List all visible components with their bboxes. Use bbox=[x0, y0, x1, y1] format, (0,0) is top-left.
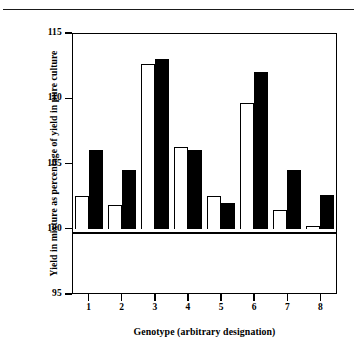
y-axis-tick bbox=[65, 293, 72, 294]
x-axis-tick-label: 6 bbox=[245, 303, 263, 313]
x-axis-tick-label: 4 bbox=[179, 303, 197, 313]
bar-filled-genotype-1 bbox=[89, 150, 103, 228]
bar-filled-genotype-7 bbox=[287, 170, 301, 229]
baseline-100 bbox=[72, 232, 337, 234]
x-axis-tick-label: 7 bbox=[278, 303, 296, 313]
x-axis-tick bbox=[154, 294, 155, 301]
bar-open-genotype-5 bbox=[207, 196, 221, 229]
bar-filled-genotype-3 bbox=[155, 59, 169, 229]
bar-open-genotype-8 bbox=[306, 226, 320, 229]
y-axis-tick-label: 115 bbox=[38, 28, 62, 38]
bar-open-genotype-2 bbox=[108, 205, 122, 228]
x-axis-tick bbox=[220, 294, 221, 301]
y-axis-tick bbox=[65, 228, 72, 229]
bar-open-genotype-6 bbox=[240, 103, 254, 228]
bar-filled-genotype-6 bbox=[254, 72, 268, 229]
y-axis-tick bbox=[65, 32, 72, 33]
x-axis-tick-label: 8 bbox=[311, 303, 329, 313]
bar-chart-figure: 95100105110115 12345678 Yield in mixture… bbox=[0, 0, 357, 353]
x-axis-tick-label: 1 bbox=[80, 303, 98, 313]
bar-filled-genotype-8 bbox=[320, 195, 334, 229]
bar-open-genotype-3 bbox=[141, 64, 155, 228]
y-axis-tick bbox=[65, 98, 72, 99]
x-axis-tick bbox=[88, 294, 89, 301]
bar-filled-genotype-2 bbox=[122, 170, 136, 229]
bar-open-genotype-4 bbox=[174, 147, 188, 229]
x-axis-tick bbox=[287, 294, 288, 301]
bar-filled-genotype-5 bbox=[221, 203, 235, 229]
plot-frame bbox=[72, 33, 337, 294]
y-axis-tick-label: 95 bbox=[38, 289, 62, 299]
x-axis-tick bbox=[320, 294, 321, 301]
bar-open-genotype-1 bbox=[75, 196, 89, 229]
x-axis-tick bbox=[187, 294, 188, 301]
bar-filled-genotype-4 bbox=[188, 150, 202, 228]
y-axis-title: Yield in mixture as percentage of yield … bbox=[48, 39, 59, 289]
x-axis-tick bbox=[253, 294, 254, 301]
x-axis-title: Genotype (arbitrary designation) bbox=[72, 326, 337, 337]
x-axis-tick-label: 5 bbox=[212, 303, 230, 313]
x-axis-tick-label: 3 bbox=[146, 303, 164, 313]
y-axis-tick bbox=[65, 163, 72, 164]
x-axis-tick-label: 2 bbox=[113, 303, 131, 313]
bar-open-genotype-7 bbox=[273, 210, 287, 228]
x-axis-tick bbox=[121, 294, 122, 301]
